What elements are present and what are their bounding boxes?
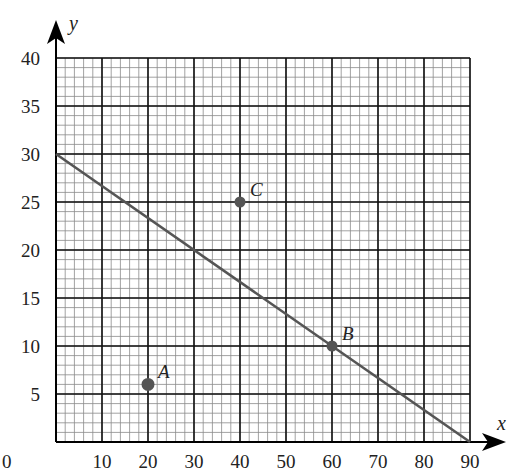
y-tick-label: 25 (21, 192, 40, 213)
x-tick-label: 70 (369, 451, 388, 472)
x-tick-label: 40 (231, 451, 250, 472)
point-c (235, 197, 246, 208)
x-tick-label: 80 (415, 451, 434, 472)
y-tick-label: 20 (21, 240, 40, 261)
x-tick-label: 90 (461, 451, 480, 472)
point-a (142, 378, 155, 391)
x-tick-label: 10 (93, 451, 112, 472)
x-axis-label: x (496, 412, 506, 434)
y-tick-label: 10 (21, 336, 40, 357)
x-tick-label: 60 (323, 451, 342, 472)
x-tick-label: 20 (139, 451, 158, 472)
y-tick-label: 5 (31, 384, 41, 405)
y-tick-label: 30 (21, 144, 40, 165)
y-tick-label: 35 (21, 96, 40, 117)
origin-label: 0 (2, 451, 12, 472)
point-label-a: A (156, 361, 170, 382)
point-label-b: B (342, 323, 354, 344)
x-tick-label: 50 (277, 451, 296, 472)
data-points: ABC (142, 179, 355, 391)
point-label-c: C (250, 179, 263, 200)
x-tick-label: 30 (185, 451, 204, 472)
y-tick-label: 40 (21, 48, 40, 69)
point-b (327, 341, 338, 352)
y-tick-label: 15 (21, 288, 40, 309)
coordinate-plane-chart: 102030405060708090510152025303540 ABC x … (0, 0, 519, 476)
y-axis-label: y (67, 12, 78, 35)
